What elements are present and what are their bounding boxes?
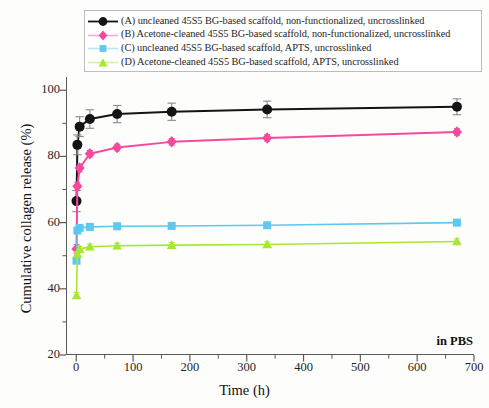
legend-marker-circle-icon [88,14,118,27]
x-tick-300: 300 [227,360,267,375]
x-tick-0: 0 [56,360,96,375]
legend-label-a: (A) uncleaned 45S5 BG-based scaffold, no… [121,15,424,27]
legend-marker-square-icon [88,41,118,54]
legend-marker-diamond-icon [88,28,118,41]
legend-entry-a: (A) uncleaned 45S5 BG-based scaffold, no… [88,14,477,28]
legend-label-c: (C) uncleaned 45S5 BG-based scaffold, AP… [121,42,371,54]
x-tick-400: 400 [284,360,324,375]
legend-label-d: (D) Acetone-cleaned 45S5 BG-based scaffo… [121,56,398,68]
x-tick-200: 200 [170,360,210,375]
in-pbs-annotation: in PBS [437,334,473,349]
plot-area [66,77,474,355]
legend-label-b: (B) Acetone-cleaned 45S5 BG-based scaffo… [121,28,450,40]
x-tick-600: 600 [397,360,437,375]
y-axis-title: Cumulative collagen release (%) [18,84,35,354]
legend-entry-b: (B) Acetone-cleaned 45S5 BG-based scaffo… [88,28,477,42]
x-axis-tick-labels: 0100200300400500600700 [0,360,489,380]
chart-legend: (A) uncleaned 45S5 BG-based scaffold, no… [84,10,482,72]
legend-marker-triangle-icon [88,55,118,68]
legend-entry-c: (C) uncleaned 45S5 BG-based scaffold, AP… [88,41,477,55]
x-axis-title: Time (h) [0,382,489,399]
x-tick-500: 500 [340,360,380,375]
chart-figure: (A) uncleaned 45S5 BG-based scaffold, no… [0,0,489,408]
x-tick-700: 700 [454,360,489,375]
legend-entry-d: (D) Acetone-cleaned 45S5 BG-based scaffo… [88,55,477,69]
x-tick-100: 100 [113,360,153,375]
